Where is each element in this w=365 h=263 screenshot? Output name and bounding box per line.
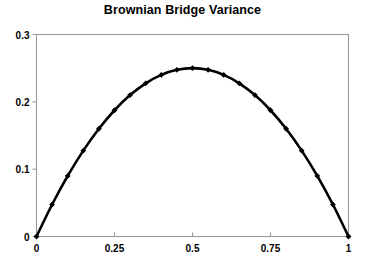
- x-axis-tick-label: 0.75: [261, 243, 280, 254]
- y-axis-tick-label: 0.1: [0, 164, 30, 175]
- y-axis-ticks: [33, 35, 37, 237]
- plot-frame: [37, 35, 349, 237]
- y-axis-tick-label: 0.3: [0, 29, 30, 40]
- y-axis-tick-label: 0.2: [0, 96, 30, 107]
- y-axis-tick-label: 0: [0, 231, 30, 242]
- x-axis-ticks: [37, 233, 349, 237]
- x-axis-tick-label: 1: [346, 243, 352, 254]
- plot-area: [0, 0, 365, 263]
- chart-container: Brownian Bridge Variance 00.10.20.3 00.2…: [0, 0, 365, 263]
- x-axis-tick-label: 0.5: [186, 243, 200, 254]
- x-axis-tick-label: 0.25: [105, 243, 124, 254]
- x-axis-tick-label: 0: [34, 243, 40, 254]
